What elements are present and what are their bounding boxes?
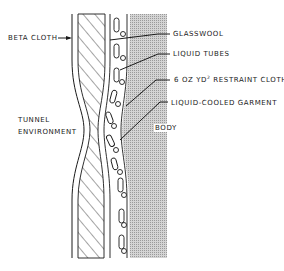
label-environment: ENVIRONMENT bbox=[18, 128, 77, 136]
label-glasswool: GLASSWOOL bbox=[173, 30, 223, 38]
label-tunnel: TUNNEL bbox=[18, 116, 50, 124]
label-beta-cloth: BETA CLOTH bbox=[8, 34, 58, 42]
restraint-suffix: RESTRAINT CLOTH bbox=[211, 76, 284, 84]
label-liquid-cooled-garment: LIQUID-COOLED GARMENT bbox=[171, 99, 277, 107]
label-body: BODY bbox=[154, 124, 178, 132]
body-region bbox=[122, 14, 167, 258]
label-restraint-cloth: 6 OZ YD2 RESTRAINT CLOTH bbox=[174, 76, 284, 84]
arrowhead-beta bbox=[66, 36, 72, 40]
label-liquid-tubes: LIQUID TUBES bbox=[173, 50, 230, 58]
restraint-prefix: 6 OZ YD bbox=[174, 76, 207, 84]
glasswool-layer bbox=[78, 14, 105, 258]
